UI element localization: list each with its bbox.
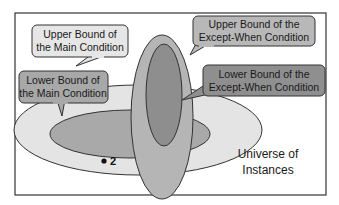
except-lower-bound-ellipse (146, 44, 182, 146)
instance-point-label: 2 (110, 155, 116, 167)
svg-text:Except-When Condition: Except-When Condition (199, 31, 309, 43)
svg-text:Upper Bound of the: Upper Bound of the (208, 18, 299, 30)
svg-text:Upper Bound of: Upper Bound of (43, 28, 117, 40)
svg-text:Except-When Condition: Except-When Condition (209, 81, 319, 93)
svg-text:Lower Bound of the: Lower Bound of the (218, 68, 309, 80)
callout-lower-except: Lower Bound of the Except-When Condition (182, 65, 325, 100)
instance-point (101, 158, 106, 163)
svg-text:the Main Condition: the Main Condition (36, 41, 124, 53)
universe-label-line1: Universe of (238, 147, 299, 161)
svg-text:the Main Condition: the Main Condition (19, 87, 107, 99)
venn-diagram: 2 Upper Bound of the Main Condition Lowe… (0, 0, 339, 205)
svg-text:Lower Bound of: Lower Bound of (26, 74, 100, 86)
universe-label-line2: Instances (242, 163, 293, 177)
